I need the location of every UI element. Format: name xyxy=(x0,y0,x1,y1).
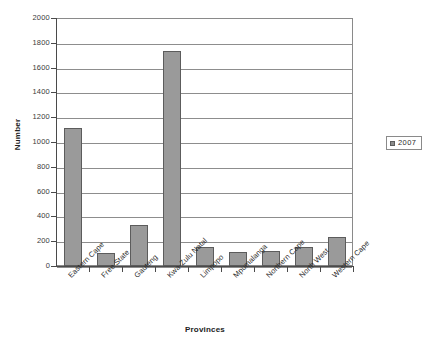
bar-slot xyxy=(221,18,254,266)
x-axis-tick xyxy=(287,267,288,272)
bar-slot xyxy=(122,18,155,266)
bar-slot xyxy=(320,18,353,266)
y-axis-tick xyxy=(51,18,56,19)
y-axis-tick-label: 0 xyxy=(4,262,50,270)
bar-slot xyxy=(56,18,89,266)
x-axis-tick xyxy=(221,267,222,272)
bar-slot xyxy=(89,18,122,266)
y-axis-tick xyxy=(51,266,56,267)
y-axis-tick xyxy=(51,117,56,118)
x-axis-tick xyxy=(89,267,90,272)
x-axis-tick xyxy=(188,267,189,272)
y-axis-tick-label: 1000 xyxy=(4,138,50,146)
x-axis-tick xyxy=(155,267,156,272)
y-axis-tick-label: 2000 xyxy=(4,14,50,22)
y-axis-tick-labels: 2000180016001400120010008006004002000 xyxy=(0,0,50,351)
y-axis-tick-label: 600 xyxy=(4,188,50,196)
y-axis-tick-label: 1600 xyxy=(4,64,50,72)
x-axis-title: Provinces xyxy=(0,325,410,334)
bar xyxy=(64,128,82,266)
bar xyxy=(163,51,181,266)
x-axis-tick xyxy=(122,267,123,272)
x-axis-tick xyxy=(353,267,354,272)
y-axis-tick xyxy=(51,142,56,143)
y-axis-tick-label: 1200 xyxy=(4,113,50,121)
bar-slot xyxy=(287,18,320,266)
y-axis-tick xyxy=(51,241,56,242)
bar-chart: 2000180016001400120010008006004002000 Nu… xyxy=(0,0,440,351)
y-axis-tick xyxy=(51,68,56,69)
y-axis-tick xyxy=(51,167,56,168)
legend-entry-label: 2007 xyxy=(398,139,416,147)
bar-slot xyxy=(155,18,188,266)
y-axis-tick xyxy=(51,216,56,217)
bars-layer xyxy=(56,18,353,266)
x-axis-tick xyxy=(320,267,321,272)
y-axis-tick-label: 1800 xyxy=(4,39,50,47)
y-axis-tick xyxy=(51,192,56,193)
y-axis-tick-label: 1400 xyxy=(4,88,50,96)
y-axis-tick-label: 400 xyxy=(4,212,50,220)
y-axis-tick-label: 800 xyxy=(4,163,50,171)
bar-slot xyxy=(254,18,287,266)
legend-swatch-icon xyxy=(390,141,395,146)
y-axis-title: Number xyxy=(13,105,22,165)
y-axis-tick xyxy=(51,43,56,44)
y-axis-tick-label: 200 xyxy=(4,237,50,245)
y-axis-tick xyxy=(51,92,56,93)
x-axis-tick xyxy=(254,267,255,272)
chart-legend: 2007 xyxy=(386,136,422,150)
bar-slot xyxy=(188,18,221,266)
